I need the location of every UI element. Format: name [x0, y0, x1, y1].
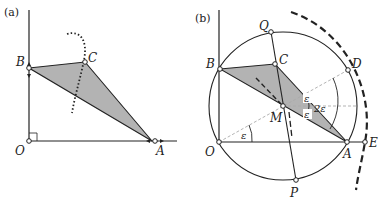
point-a [345, 140, 350, 145]
point-a [153, 139, 158, 144]
point-c [273, 62, 278, 67]
label-a: A [155, 144, 165, 158]
point-o [217, 140, 222, 145]
arrow-down-icon [27, 74, 31, 78]
angle-label-2eps: 2ε [313, 103, 326, 114]
panel-a-label: (a) [4, 6, 19, 19]
label-b: B [205, 57, 215, 71]
point-m [281, 104, 286, 109]
point-q [269, 30, 274, 35]
label-c: C [88, 51, 97, 65]
label-e: E [368, 136, 378, 150]
point-d [346, 68, 351, 73]
label-o: O [15, 144, 25, 158]
label-b: B [15, 55, 25, 69]
label-p: P [289, 186, 299, 198]
angle-label-eps-bottom: ε [304, 109, 309, 120]
label-a: A [342, 147, 352, 161]
label-d: D [351, 57, 362, 71]
label-q: Q [259, 19, 269, 33]
triangle-abc [29, 62, 152, 141]
point-p [294, 178, 299, 183]
arrow-left-icon [146, 139, 150, 143]
label-c: C [279, 53, 288, 67]
point-o [27, 139, 32, 144]
point-b [218, 67, 223, 72]
arrow-right-icon [160, 139, 164, 143]
point-b [27, 66, 32, 71]
figure: (a) O B C A (b) [0, 0, 386, 198]
angle-arc-o [249, 125, 252, 142]
panel-a: (a) O B C A [4, 6, 177, 158]
angle-label-eps-o: ε [241, 130, 246, 141]
panel-b-label: (b) [195, 12, 211, 25]
point-c [83, 60, 88, 65]
panel-b: (b) ε ε 2ε ε [195, 10, 378, 198]
dashed-segment-mp [289, 112, 292, 138]
label-m: M [269, 111, 283, 125]
point-e [363, 140, 368, 145]
angle-label-eps-top: ε [304, 93, 309, 104]
angle-arc-2eps [330, 78, 338, 129]
label-o: O [205, 145, 215, 159]
